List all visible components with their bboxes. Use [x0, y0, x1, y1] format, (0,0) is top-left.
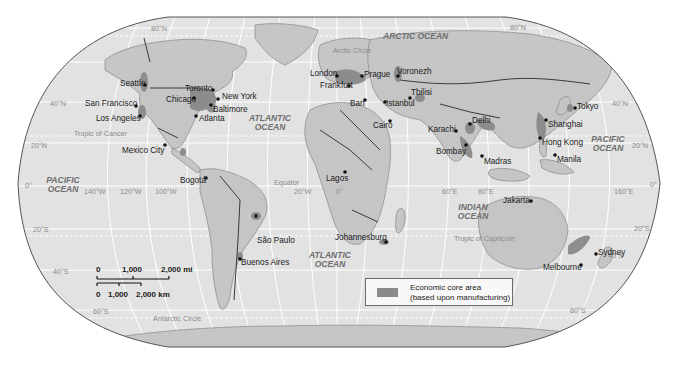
antarctica	[0, 325, 660, 367]
legend: Economic core area (based upon manufactu…	[365, 278, 513, 306]
city-bogota: Bogotá	[180, 177, 206, 185]
grat-120w: 120°W	[120, 188, 142, 195]
grat-140w: 140°W	[84, 188, 106, 195]
legend-label-line2: (based upon manufacturing)	[410, 293, 510, 303]
city-lagos: Lagos	[326, 175, 348, 183]
label-tropic-capricorn: Tropic of Capricorn	[454, 235, 515, 242]
city-bari: Bari	[350, 100, 365, 108]
city-mexico-city: Mexico City	[122, 147, 164, 155]
label-tropic-cancer: Tropic of Cancer	[74, 130, 127, 137]
scale-bar: 0 1,000 2,000 mi 0 1,000 2,000 km	[96, 262, 216, 302]
city-madras: Madras	[484, 158, 511, 166]
ocean-label-pacific-east: PACIFIC OCEAN	[583, 135, 633, 152]
city-san-francisco: San Francisco	[85, 100, 137, 108]
grat-20w: 20°W	[294, 188, 312, 195]
ocean-label-indian: INDIAN OCEAN	[448, 203, 498, 220]
grat-80n-left: 80°N	[151, 25, 167, 32]
scale-mi-2000: 2,000 mi	[161, 265, 193, 274]
grat-80e: 80°E	[478, 188, 494, 195]
city-seattle: Seattle	[120, 80, 146, 88]
ocean-label-pacific-west: PACIFIC OCEAN	[38, 176, 88, 193]
city-chicago: Chicago	[166, 96, 196, 104]
city-hong-kong: Hong Kong	[542, 139, 583, 147]
legend-label-line1: Economic core area	[410, 283, 510, 293]
city-melbourne: Melbourne	[543, 264, 582, 272]
grat-80n-right: 80°N	[510, 24, 526, 31]
city-toronto: Toronto	[185, 85, 212, 93]
city-atlanta: Atlanta	[199, 115, 225, 123]
scale-km-1000: 1,000	[108, 290, 128, 299]
city-buenos-aires: Buenos Aires	[241, 259, 289, 267]
city-delhi: Delhi	[472, 117, 491, 125]
grat-0-right: 0°	[650, 181, 657, 188]
city-sao-paulo: São Paulo	[257, 237, 295, 245]
ocean-label-atlantic-north: ATLANTIC OCEAN	[240, 114, 300, 131]
city-karachi: Karachi	[428, 126, 456, 134]
city-frankfurt: Frankfurt	[320, 82, 353, 90]
legend-swatch-core-area	[377, 288, 398, 297]
grat-0-left: 0°	[25, 182, 32, 189]
grat-40n-right: 40°N	[612, 100, 628, 107]
grat-20s-right: 20°S	[634, 225, 650, 232]
city-sydney: Sydney	[598, 249, 625, 257]
scale-mi-0: 0	[96, 265, 100, 274]
scale-km-2000: 2,000 km	[136, 290, 170, 299]
city-jakarta: Jakarta	[503, 197, 530, 205]
grat-60e: 60°E	[442, 188, 458, 195]
grat-100w: 100°W	[155, 188, 177, 195]
city-bombay: Bombay	[436, 148, 466, 156]
city-los-angeles: Los Angeles	[96, 115, 141, 123]
city-shanghai: Shanghai	[548, 121, 583, 129]
grat-160e: 160°E	[614, 188, 634, 195]
grat-40s-left: 40°S	[53, 268, 69, 275]
grat-60s-left: 60°S	[93, 308, 109, 315]
grat-20s-left: 20°S	[33, 226, 49, 233]
scale-mi-1000: 1,000	[122, 265, 142, 274]
label-equator: Equator	[274, 179, 299, 186]
legend-label: Economic core area (based upon manufactu…	[410, 283, 510, 302]
label-arctic-circle: Arctic Circle	[333, 47, 371, 54]
city-cairo: Cairo	[373, 122, 393, 130]
city-tbilisi: Tbilisi	[411, 89, 432, 97]
city-voronezh: Voronezh	[397, 68, 432, 76]
city-new-york: New York	[222, 93, 257, 101]
city-istanbul: Istanbul	[386, 100, 415, 108]
grat-0-lon: 0°	[336, 188, 343, 195]
city-johannesburg: Johannesburg	[335, 234, 387, 242]
grat-40n-left: 40°N	[50, 100, 66, 107]
ocean-label-atlantic-south: ATLANTIC OCEAN	[300, 251, 360, 268]
city-london: London	[310, 70, 337, 78]
ocean-label-arctic: ARCTIC OCEAN	[383, 32, 448, 41]
city-prague: Prague	[364, 71, 390, 79]
grat-60s-right: 60°S	[570, 307, 586, 314]
city-tokyo: Tokyo	[577, 103, 598, 111]
label-antarctic-circle: Antarctic Circle	[153, 315, 201, 322]
city-manila: Manila	[557, 156, 581, 164]
city-baltimore: Baltimore	[213, 106, 248, 114]
grat-20n-right: 20°N	[632, 142, 648, 149]
scale-km-0: 0	[96, 290, 100, 299]
grat-20n-left: 20°N	[31, 142, 47, 149]
